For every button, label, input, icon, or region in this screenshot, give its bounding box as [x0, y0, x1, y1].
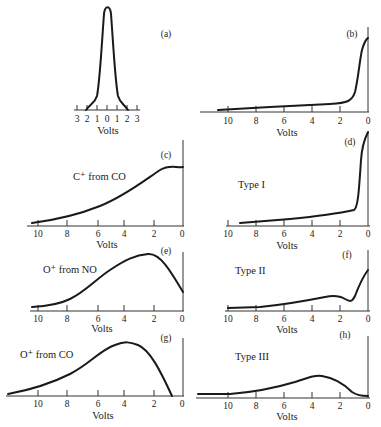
svg-text:2: 2: [338, 314, 343, 324]
svg-text:6: 6: [96, 229, 101, 239]
curve-h: [198, 376, 368, 396]
panel-g: 10 8 6 4 2 0 Volts (g) O⁺ from CO: [6, 333, 185, 421]
svg-text:6: 6: [282, 116, 287, 126]
curve-b: [218, 38, 368, 110]
svg-text:Volts: Volts: [276, 411, 297, 422]
panel-label-b: (b): [346, 29, 357, 40]
svg-text:10: 10: [33, 314, 43, 324]
svg-text:Volts: Volts: [276, 240, 297, 251]
svg-text:2: 2: [152, 314, 157, 324]
svg-text:2: 2: [152, 229, 157, 239]
svg-text:2: 2: [338, 116, 343, 126]
svg-text:2: 2: [152, 399, 157, 409]
svg-text:6: 6: [282, 401, 287, 411]
svg-text:8: 8: [254, 229, 259, 239]
annotation-f: Type II: [235, 265, 266, 276]
panel-f: 10 8 6 4 2 0 Volts (f) Type II: [223, 250, 370, 335]
panel-label-a: (a): [161, 29, 172, 40]
annotation-g: O⁺ from CO: [20, 349, 74, 360]
svg-text:10: 10: [223, 314, 233, 324]
svg-text:2: 2: [338, 401, 343, 411]
x-axis-title: Volts: [97, 125, 118, 136]
svg-text:0: 0: [105, 114, 110, 124]
svg-text:4: 4: [310, 314, 315, 324]
svg-text:4: 4: [310, 401, 315, 411]
svg-text:4: 4: [310, 116, 315, 126]
svg-text:6: 6: [96, 399, 101, 409]
svg-text:8: 8: [65, 229, 70, 239]
svg-text:2: 2: [85, 114, 90, 124]
annotation-e: O⁺ from NO: [43, 264, 97, 275]
curve-e: [32, 254, 183, 307]
svg-text:4: 4: [122, 399, 127, 409]
svg-text:1: 1: [95, 114, 100, 124]
svg-text:Volts: Volts: [276, 324, 297, 335]
annotation-c: C⁺ from CO: [73, 171, 126, 182]
svg-text:4: 4: [122, 314, 127, 324]
svg-text:8: 8: [254, 314, 259, 324]
svg-text:0: 0: [366, 229, 371, 239]
panel-c: 10 8 6 4 2 0 Volts (c) C⁺ from CO: [27, 140, 185, 250]
svg-text:10: 10: [223, 401, 233, 411]
curve-a: [86, 7, 128, 110]
svg-text:10: 10: [223, 116, 233, 126]
panel-label-h: (h): [339, 330, 350, 341]
svg-text:0: 0: [180, 314, 185, 324]
panel-label-c: (c): [161, 150, 172, 161]
panel-label-f: (f): [342, 250, 352, 261]
svg-text:0: 0: [180, 399, 185, 409]
svg-text:Volts: Volts: [96, 239, 117, 250]
svg-text:8: 8: [65, 314, 70, 324]
svg-text:2: 2: [338, 229, 343, 239]
panel-a: 3 2 1 0 1 2 3 Volts (a): [74, 7, 171, 136]
svg-text:8: 8: [254, 401, 259, 411]
svg-text:8: 8: [65, 399, 70, 409]
panel-e: 10 8 6 4 2 0 Volts (e) O⁺ from NO: [30, 246, 185, 334]
svg-text:2: 2: [125, 114, 130, 124]
svg-text:8: 8: [254, 116, 259, 126]
panel-b: 10 8 6 4 2 0 Volts (b): [200, 27, 371, 138]
svg-text:4: 4: [310, 229, 315, 239]
panel-label-g: (g): [160, 333, 171, 344]
svg-text:1: 1: [115, 114, 120, 124]
svg-text:6: 6: [282, 229, 287, 239]
svg-text:Volts: Volts: [91, 323, 112, 334]
svg-text:0: 0: [366, 314, 371, 324]
svg-text:0: 0: [366, 116, 371, 126]
svg-text:Volts: Volts: [276, 127, 297, 138]
figure-canvas: 3 2 1 0 1 2 3 Volts (a) 10 8 6 4 2 0 Vol…: [0, 0, 381, 427]
svg-text:Volts: Volts: [92, 410, 113, 421]
svg-text:0: 0: [366, 401, 371, 411]
panel-label-d: (d): [344, 137, 355, 148]
svg-text:3: 3: [75, 114, 80, 124]
panel-d: 10 8 6 4 2 0 Volts (d) Type I: [223, 132, 370, 251]
panel-h: 10 8 6 4 2 0 Volts (h) Type III: [196, 330, 371, 422]
svg-text:10: 10: [33, 399, 43, 409]
svg-text:0: 0: [180, 229, 185, 239]
panel-label-e: (e): [161, 246, 172, 257]
annotation-d: Type I: [238, 179, 265, 190]
annotation-h: Type III: [235, 351, 269, 362]
svg-text:3: 3: [135, 114, 140, 124]
svg-text:10: 10: [223, 229, 233, 239]
svg-text:6: 6: [282, 314, 287, 324]
svg-text:4: 4: [122, 229, 127, 239]
svg-text:10: 10: [33, 229, 43, 239]
